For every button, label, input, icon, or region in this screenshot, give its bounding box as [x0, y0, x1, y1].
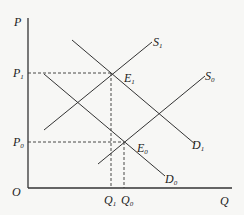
- curve-label-s1: S1: [153, 35, 163, 50]
- supply-curve-s0: [98, 76, 205, 164]
- curve-label-d1: D1: [191, 138, 204, 153]
- quantity-label-q1: Q1: [104, 193, 116, 208]
- curve-label-s0: S0: [205, 69, 215, 84]
- x-axis-label: Q: [220, 194, 229, 208]
- demand-curve-d0: [44, 74, 165, 176]
- origin-label: O: [12, 185, 21, 199]
- quantity-label-q0: Q0: [121, 193, 134, 208]
- price-label-p0: P0: [12, 135, 24, 150]
- supply-curve-s1: [44, 42, 152, 130]
- y-axis-label: P: [13, 15, 22, 29]
- equilibrium-label-e0: E0: [136, 141, 148, 156]
- price-label-p1: P1: [12, 66, 24, 81]
- curve-label-d0: D0: [164, 172, 178, 187]
- supply-demand-diagram: P Q O P1 P0 Q1 Q0 S1 S0 D1 D0 E1 E0: [0, 0, 244, 215]
- equilibrium-label-e1: E1: [123, 71, 135, 86]
